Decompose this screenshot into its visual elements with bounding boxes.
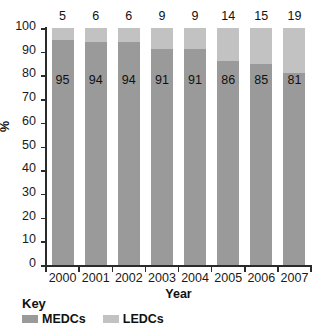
medcs-value-label: 91: [151, 74, 173, 87]
y-tick-label: 30: [22, 186, 36, 199]
medcs-value-label: 91: [184, 74, 206, 87]
y-tick-mark: [41, 147, 45, 149]
medcs-value-label: 81: [283, 74, 305, 87]
bar-segment-ledcs[interactable]: [52, 28, 74, 40]
x-axis-title: Year: [46, 287, 311, 301]
bar-stack[interactable]: 91: [151, 28, 173, 265]
medcs-value-label: 94: [85, 74, 107, 87]
x-category-label: 2007: [277, 272, 311, 285]
medcs-value-label: 94: [118, 74, 140, 87]
y-tick-label: 60: [22, 115, 36, 128]
y-tick-label: 80: [22, 67, 36, 80]
legend-item[interactable]: MEDCs: [22, 313, 86, 326]
bar-stack[interactable]: 94: [118, 28, 140, 265]
medcs-value-label: 86: [217, 74, 239, 87]
bar-segment-ledcs[interactable]: [250, 28, 272, 64]
medcs-value-label: 85: [250, 74, 272, 87]
y-tick-label: 0: [29, 257, 36, 270]
y-tick-mark: [41, 75, 45, 77]
y-tick-mark: [41, 218, 45, 220]
y-tick-label: 40: [22, 162, 36, 175]
bar-stack[interactable]: 94: [85, 28, 107, 265]
ledcs-value-label: 19: [283, 10, 305, 23]
bar-segment-ledcs[interactable]: [85, 28, 107, 42]
bar-segment-ledcs[interactable]: [151, 28, 173, 49]
x-category-label: 2002: [112, 272, 146, 285]
ledcs-value-label: 9: [184, 10, 206, 23]
x-category-label: 2006: [244, 272, 278, 285]
x-category-label: 2000: [46, 272, 80, 285]
ledcs-value-label: 6: [118, 10, 140, 23]
y-tick-label: 10: [22, 233, 36, 246]
ledcs-value-label: 15: [250, 10, 272, 23]
legend: MEDCsLEDCs: [22, 313, 176, 325]
legend-label: MEDCs: [42, 313, 86, 326]
y-tick-mark: [41, 194, 45, 196]
bar-segment-ledcs[interactable]: [118, 28, 140, 42]
y-tick-mark: [41, 99, 45, 101]
bar-segment-ledcs[interactable]: [283, 28, 305, 73]
medcs-value-label: 95: [52, 74, 74, 87]
y-tick-mark: [41, 241, 45, 243]
y-tick-label: 70: [22, 91, 36, 104]
bar-stack[interactable]: 85: [250, 28, 272, 265]
ledcs-value-label: 6: [85, 10, 107, 23]
legend-label: LEDCs: [123, 313, 164, 326]
y-tick-mark: [41, 52, 45, 54]
y-tick-label: 20: [22, 210, 36, 223]
y-tick-label: 100: [15, 20, 36, 33]
y-tick-mark: [41, 170, 45, 172]
bar-stack[interactable]: 86: [217, 28, 239, 265]
x-category-label: 2005: [211, 272, 245, 285]
bar-segment-ledcs[interactable]: [217, 28, 239, 61]
x-category-label: 2003: [145, 272, 179, 285]
bar-segment-medcs[interactable]: [250, 64, 272, 265]
x-category-label: 2001: [79, 272, 113, 285]
ledcs-value-label: 5: [52, 10, 74, 23]
bar-segment-medcs[interactable]: [283, 73, 305, 265]
x-category-label: 2004: [178, 272, 212, 285]
plot-area: 9594949191868581: [46, 28, 311, 265]
bar-segment-ledcs[interactable]: [184, 28, 206, 49]
y-axis-title: %: [0, 121, 12, 132]
bar-stack[interactable]: 95: [52, 28, 74, 265]
ledcs-value-label: 14: [217, 10, 239, 23]
legend-swatch: [103, 315, 119, 323]
bar-stack[interactable]: 91: [184, 28, 206, 265]
legend-title: Key: [22, 296, 46, 311]
y-tick-mark: [41, 123, 45, 125]
y-tick-label: 50: [22, 139, 36, 152]
legend-swatch: [22, 315, 38, 323]
y-tick-mark: [41, 28, 45, 30]
bar-stack[interactable]: 81: [283, 28, 305, 265]
bar-segment-medcs[interactable]: [217, 61, 239, 265]
legend-item[interactable]: LEDCs: [103, 313, 164, 326]
y-tick-label: 90: [22, 44, 36, 57]
ledcs-value-label: 9: [151, 10, 173, 23]
